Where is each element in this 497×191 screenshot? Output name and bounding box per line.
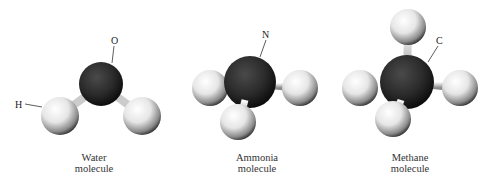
- caption-line: molecule: [360, 163, 460, 174]
- methane-molecule: C: [342, 9, 478, 137]
- caption-line: molecule: [207, 163, 307, 174]
- hydrogen-atom: [192, 70, 228, 106]
- hydrogen-label: H: [15, 99, 22, 110]
- hydrogen-atom: [123, 97, 161, 135]
- label-pointer: [260, 40, 266, 57]
- label-pointer: [112, 46, 114, 63]
- hydrogen-atom: [282, 70, 318, 106]
- hydrogen-atom: [442, 70, 478, 106]
- hydrogen-atom: [375, 101, 411, 137]
- carbon-atom: [380, 55, 434, 109]
- label-pointer: [25, 104, 42, 107]
- caption-line: molecule: [44, 163, 144, 174]
- water-molecule: O H: [15, 35, 161, 135]
- caption-line: Ammonia: [207, 152, 307, 163]
- carbon-label: C: [436, 35, 443, 46]
- hydrogen-atom: [390, 9, 426, 45]
- water-caption: Water molecule: [44, 152, 144, 174]
- label-pointer: [428, 46, 438, 62]
- hydrogen-atom: [342, 70, 378, 106]
- caption-line: Methane: [360, 152, 460, 163]
- methane-caption: Methane molecule: [360, 152, 460, 174]
- oxygen-label: O: [111, 35, 118, 46]
- hydrogen-atom: [220, 104, 256, 140]
- nitrogen-label: N: [262, 29, 269, 40]
- nitrogen-atom: [224, 56, 276, 108]
- caption-line: Water: [44, 152, 144, 163]
- oxygen-atom: [79, 62, 123, 106]
- ammonia-molecule: N: [192, 29, 318, 140]
- ammonia-caption: Ammonia molecule: [207, 152, 307, 174]
- hydrogen-atom: [41, 97, 79, 135]
